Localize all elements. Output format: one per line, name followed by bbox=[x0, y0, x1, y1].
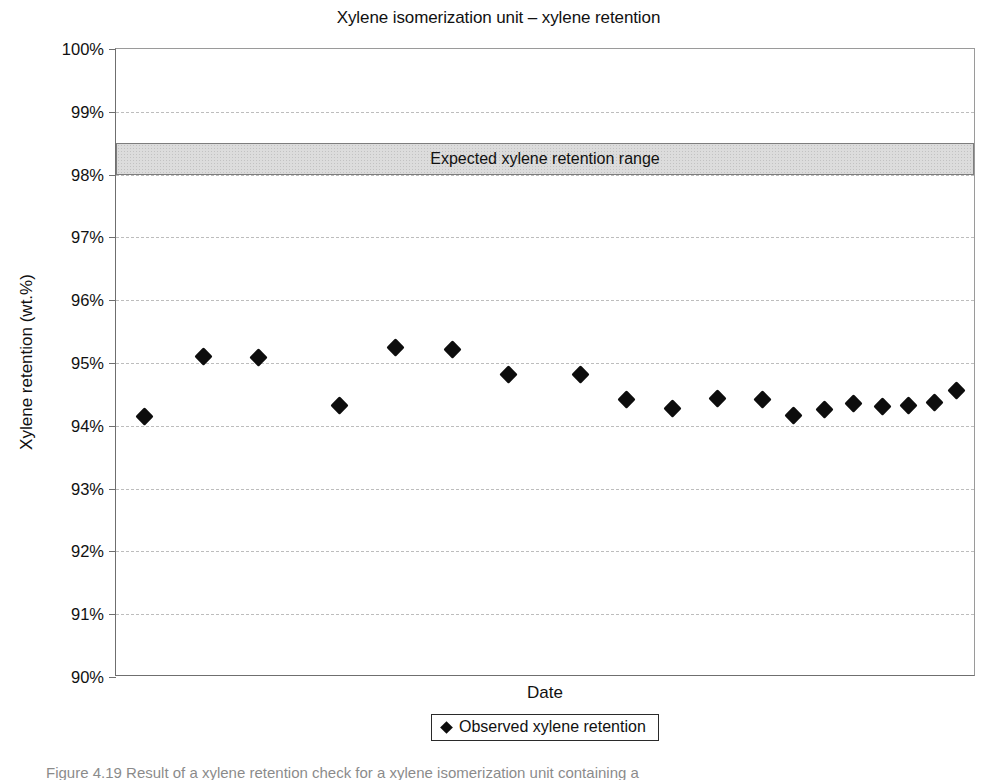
y-axis-tick-mark bbox=[109, 614, 116, 615]
chart-title: Xylene isomerization unit – xylene reten… bbox=[0, 8, 997, 28]
plot-area: 100%99%98%97%96%95%94%93%92%91%90% Expec… bbox=[115, 48, 975, 676]
data-point bbox=[664, 400, 682, 418]
y-axis-tick-label: 91% bbox=[71, 605, 104, 624]
gridline-94% bbox=[116, 426, 974, 427]
y-axis-tick-label: 93% bbox=[71, 479, 104, 498]
y-axis-tick-label: 90% bbox=[71, 668, 104, 687]
y-axis-tick-mark bbox=[109, 237, 116, 238]
y-axis-tick-mark bbox=[109, 175, 116, 176]
gridline-93% bbox=[116, 489, 974, 490]
y-axis-title-text: Xylene retention (wt.%) bbox=[17, 274, 37, 450]
data-point bbox=[443, 340, 461, 358]
gridline-92% bbox=[116, 551, 974, 552]
y-axis-tick-label: 98% bbox=[71, 165, 104, 184]
y-axis-tick-mark bbox=[109, 300, 116, 301]
data-point bbox=[571, 366, 589, 384]
expected-range-band: Expected xylene retention range bbox=[116, 143, 974, 174]
y-axis-tick-mark bbox=[109, 426, 116, 427]
data-point bbox=[948, 381, 966, 399]
data-point bbox=[708, 389, 726, 407]
data-point bbox=[499, 365, 517, 383]
data-point bbox=[816, 400, 834, 418]
y-axis-title: Xylene retention (wt.%) bbox=[14, 48, 40, 676]
gridline-91% bbox=[116, 614, 974, 615]
y-axis-tick-label: 99% bbox=[71, 102, 104, 121]
expected-range-band-label: Expected xylene retention range bbox=[117, 150, 973, 168]
y-axis-tick-label: 92% bbox=[71, 542, 104, 561]
data-point bbox=[753, 390, 771, 408]
data-point bbox=[330, 396, 348, 414]
figure-caption: Figure 4.19 Result of a xylene retention… bbox=[46, 766, 966, 780]
data-point bbox=[617, 390, 635, 408]
y-axis-tick-mark bbox=[109, 49, 116, 50]
gridline-98% bbox=[116, 175, 974, 176]
x-axis-title: Date bbox=[115, 683, 975, 703]
chart-legend: Observed xylene retention bbox=[431, 714, 659, 741]
data-point bbox=[249, 349, 267, 367]
data-point bbox=[873, 398, 891, 416]
y-axis-tick-mark bbox=[109, 363, 116, 364]
diamond-marker-icon bbox=[440, 721, 453, 734]
data-point bbox=[785, 406, 803, 424]
gridline-97% bbox=[116, 237, 974, 238]
gridline-95% bbox=[116, 363, 974, 364]
y-axis-tick-label: 100% bbox=[62, 40, 104, 59]
gridline-96% bbox=[116, 300, 974, 301]
y-axis-tick-mark bbox=[109, 489, 116, 490]
y-axis-tick-mark bbox=[109, 551, 116, 552]
figure-container: Xylene isomerization unit – xylene reten… bbox=[0, 0, 997, 780]
y-axis-tick-label: 94% bbox=[71, 416, 104, 435]
data-point bbox=[135, 407, 153, 425]
y-axis-tick-label: 97% bbox=[71, 228, 104, 247]
data-point bbox=[900, 396, 918, 414]
y-axis-tick-mark bbox=[109, 677, 116, 678]
gridline-99% bbox=[116, 112, 974, 113]
y-axis-tick-label: 95% bbox=[71, 354, 104, 373]
data-point bbox=[387, 338, 405, 356]
data-point bbox=[845, 395, 863, 413]
legend-entry-label: Observed xylene retention bbox=[459, 718, 646, 736]
y-axis-tick-mark bbox=[109, 112, 116, 113]
data-point bbox=[925, 393, 943, 411]
y-axis-tick-label: 96% bbox=[71, 291, 104, 310]
